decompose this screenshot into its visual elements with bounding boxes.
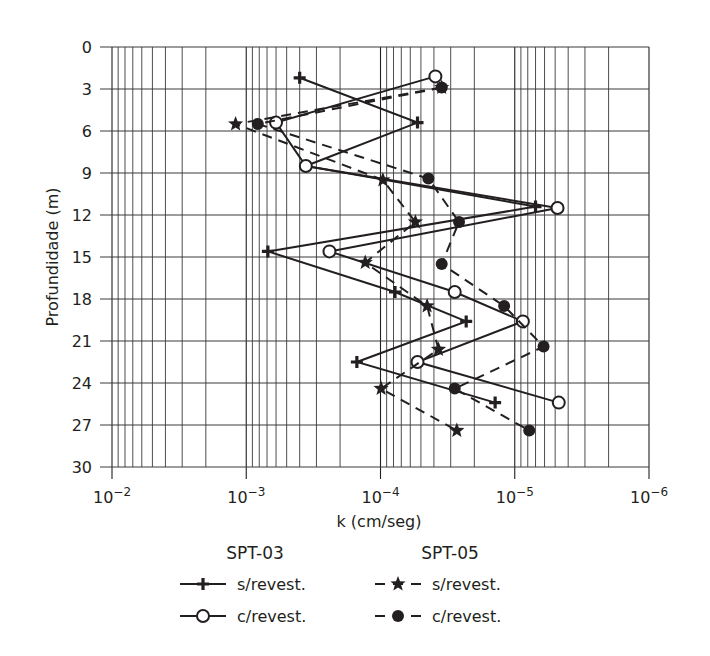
- open-circle-marker-icon: [553, 397, 565, 409]
- plot-grid: [100, 47, 649, 479]
- y-tick-label: 21: [72, 332, 92, 351]
- filled-circle-marker-icon: [453, 216, 465, 228]
- open-circle-marker-icon: [449, 286, 461, 298]
- filled-circle-marker-icon: [498, 300, 510, 312]
- plus-marker-icon: [389, 286, 401, 298]
- y-tick-label: 3: [82, 80, 92, 99]
- plus-marker-icon: [294, 72, 306, 84]
- y-tick-label: 0: [82, 38, 92, 57]
- legend: SPT-03s/revest.c/revest.SPT-05s/revest.c…: [180, 543, 501, 626]
- x-tick-label: 10−6: [630, 485, 668, 507]
- legend-group-title: SPT-05: [421, 543, 479, 563]
- open-circle-marker-icon: [197, 610, 209, 622]
- y-axis-title: Profundidade (m): [43, 187, 62, 326]
- x-tick-label: 10−2: [93, 485, 131, 507]
- plus-marker-icon: [489, 397, 501, 409]
- series-line: [236, 88, 457, 431]
- plus-marker-icon: [262, 245, 274, 257]
- open-circle-marker-icon: [300, 160, 312, 172]
- y-tick-label: 24: [72, 374, 92, 393]
- legend-item-label: s/revest.: [237, 575, 306, 594]
- filled-circle-marker-icon: [538, 341, 550, 353]
- star-marker-icon: [375, 172, 390, 187]
- plus-marker-icon: [460, 315, 472, 327]
- plus-marker-icon: [412, 117, 424, 129]
- star-marker-icon: [419, 298, 434, 313]
- filled-circle-marker-icon: [449, 383, 461, 395]
- open-circle-marker-icon: [552, 202, 564, 214]
- filled-circle-marker-icon: [392, 610, 404, 622]
- star-marker-icon: [390, 576, 405, 591]
- open-circle-marker-icon: [429, 70, 441, 82]
- filled-circle-marker-icon: [252, 118, 264, 130]
- filled-circle-marker-icon: [436, 82, 448, 94]
- star-marker-icon: [228, 116, 243, 131]
- y-tick-label: 18: [72, 290, 92, 309]
- legend-item-label: c/revest.: [432, 607, 501, 626]
- y-axis: 036912151821242730: [72, 38, 92, 477]
- filled-circle-marker-icon: [436, 258, 448, 270]
- legend-item-label: c/revest.: [237, 607, 306, 626]
- series-line: [258, 88, 544, 431]
- y-tick-label: 15: [72, 248, 92, 267]
- x-tick-label: 10−5: [496, 485, 534, 507]
- x-axis: 10−210−310−410−510−6: [93, 485, 668, 507]
- open-circle-marker-icon: [323, 245, 335, 257]
- y-tick-label: 6: [82, 122, 92, 141]
- filled-circle-marker-icon: [523, 425, 535, 437]
- x-tick-label: 10−4: [361, 485, 399, 507]
- legend-group-title: SPT-03: [226, 543, 284, 563]
- plus-marker-icon: [351, 356, 363, 368]
- y-tick-label: 9: [82, 164, 92, 183]
- plus-marker-icon: [197, 578, 209, 590]
- x-tick-label: 10−3: [227, 485, 265, 507]
- legend-item-label: s/revest.: [432, 575, 501, 594]
- filled-circle-marker-icon: [422, 173, 434, 185]
- y-tick-label: 12: [72, 206, 92, 225]
- x-axis-title: k (cm/seg): [337, 512, 422, 531]
- y-tick-label: 30: [72, 458, 92, 477]
- y-tick-label: 27: [72, 416, 92, 435]
- permeability-depth-chart: 036912151821242730 10−210−310−410−510−6 …: [0, 0, 710, 656]
